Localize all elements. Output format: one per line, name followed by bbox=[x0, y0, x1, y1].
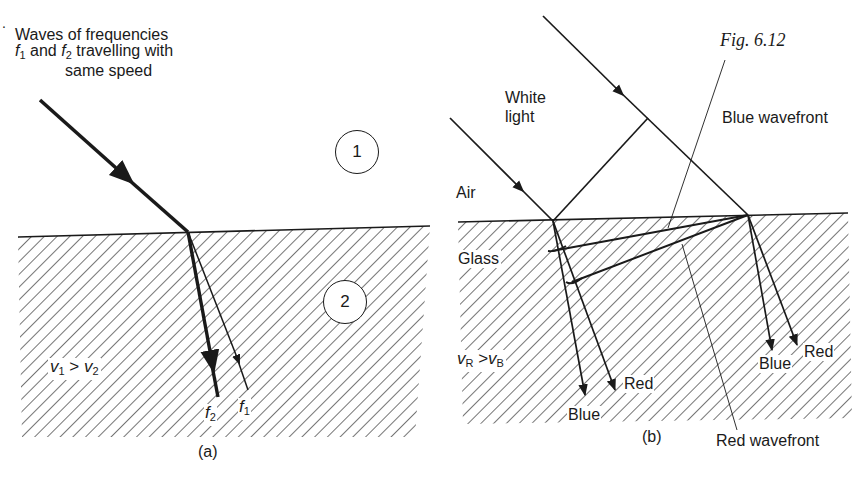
red-wavefront-label: Red wavefront bbox=[716, 432, 819, 450]
incident-wavefront bbox=[553, 118, 648, 221]
right-red-label: Red bbox=[803, 343, 834, 361]
glass-hatched-region bbox=[458, 213, 852, 424]
ray-label-f2: f2 bbox=[204, 404, 217, 426]
heading-a: Waves of frequencies f1 and f2 travellin… bbox=[15, 27, 173, 79]
dot-mark: . bbox=[2, 14, 6, 32]
caption-a: (a) bbox=[198, 443, 218, 461]
white-light-label: White light bbox=[505, 88, 546, 126]
figure-number: Fig. 6.12 bbox=[720, 30, 786, 51]
heading-line-1: Waves of frequencies bbox=[15, 27, 173, 43]
medium-2-badge: 2 bbox=[323, 280, 367, 324]
heading-line-3: same speed bbox=[15, 63, 173, 79]
ray-label-f1: f1 bbox=[238, 398, 251, 420]
incident-ray-left bbox=[450, 118, 520, 188]
blue-wavefront-label: Blue wavefront bbox=[722, 109, 828, 127]
medium-1-badge: 1 bbox=[335, 130, 379, 174]
blue-wavefront-pointer bbox=[668, 60, 725, 228]
left-red-label: Red bbox=[623, 375, 654, 393]
incident-ray-a bbox=[40, 100, 125, 176]
right-blue-label: Blue bbox=[758, 355, 792, 373]
medium-2-hatched-region bbox=[18, 226, 430, 437]
speed-relation-b: vR >vB bbox=[455, 350, 506, 372]
incident-ray-right bbox=[543, 16, 620, 92]
air-label: Air bbox=[456, 184, 476, 202]
heading-line-2: f1 and f2 travelling with bbox=[15, 43, 173, 63]
caption-b: (b) bbox=[642, 428, 662, 446]
left-blue-label: Blue bbox=[567, 406, 601, 424]
glass-label: Glass bbox=[456, 250, 501, 268]
speed-relation-a: v1 > v2 bbox=[48, 358, 101, 380]
